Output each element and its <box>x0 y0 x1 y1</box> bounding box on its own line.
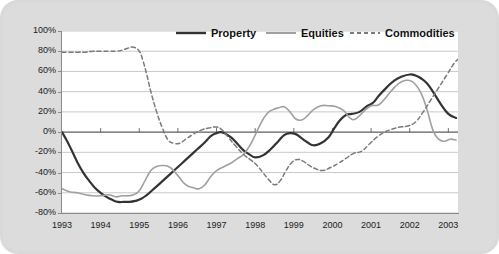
y-axis-tick-label: 80% <box>16 45 56 55</box>
x-axis-tick-label: 2003 <box>428 220 468 230</box>
y-tick <box>58 132 62 133</box>
y-tick <box>58 92 62 93</box>
y-axis-tick-label: -60% <box>16 187 56 197</box>
gridlines <box>62 31 458 213</box>
legend-label-property: Property <box>211 27 256 39</box>
y-axis-tick-label: 20% <box>16 106 56 116</box>
y-axis-tick-label: 100% <box>16 25 56 35</box>
y-axis-tick-label: 60% <box>16 65 56 75</box>
y-tick <box>58 112 62 113</box>
y-axis <box>61 31 62 214</box>
y-axis-tick-label: -20% <box>16 146 56 156</box>
x-axis-tick-label: 2000 <box>312 220 352 230</box>
x-axis-tick-label: 1996 <box>158 220 198 230</box>
y-axis-tick-label: 0% <box>16 126 56 136</box>
legend-item-property: Property <box>176 27 256 39</box>
line-chart: 100%80%60%40%20%0%-20%-40%-60%-80% 19931… <box>0 0 499 254</box>
y-tick <box>58 213 62 214</box>
x-axis-tick-label: 1999 <box>274 220 314 230</box>
legend-swatch-property <box>176 28 206 38</box>
y-tick <box>58 152 62 153</box>
x-axis-tick-label: 2002 <box>390 220 430 230</box>
plot-svg <box>62 31 458 213</box>
x-axis-tick-label: 1993 <box>42 220 82 230</box>
legend-item-commodities: Commodities <box>350 27 455 39</box>
plot-area <box>62 31 458 213</box>
y-axis-tick-label: -40% <box>16 167 56 177</box>
y-axis-tick-label: 40% <box>16 86 56 96</box>
legend-swatch-equities <box>266 28 296 38</box>
legend-label-commodities: Commodities <box>385 27 455 39</box>
y-tick <box>58 51 62 52</box>
series-lines <box>62 47 458 202</box>
series-line-commodities <box>62 47 458 185</box>
legend-label-equities: Equities <box>301 27 344 39</box>
y-axis-tick-label: -80% <box>16 207 56 217</box>
x-axis-tick-label: 1994 <box>81 220 121 230</box>
x-axis <box>61 213 459 214</box>
y-tick <box>58 71 62 72</box>
y-tick <box>58 173 62 174</box>
series-line-equities <box>62 80 456 197</box>
y-tick <box>58 193 62 194</box>
y-tick <box>58 31 62 32</box>
x-axis-tick-label: 1995 <box>119 220 159 230</box>
x-axis-tick-label: 1997 <box>197 220 237 230</box>
series-line-property <box>62 74 456 202</box>
x-axis-tick-label: 1998 <box>235 220 275 230</box>
legend-item-equities: Equities <box>266 27 344 39</box>
legend-swatch-commodities <box>350 28 380 38</box>
x-axis-tick-label: 2001 <box>351 220 391 230</box>
